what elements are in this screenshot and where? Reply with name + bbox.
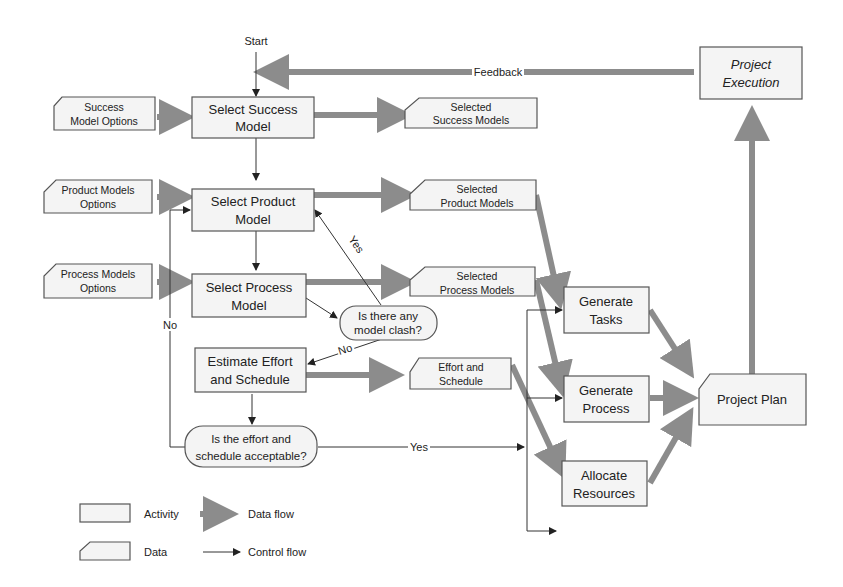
- label-no-accept: No: [163, 319, 177, 331]
- start-label: Start: [244, 35, 267, 47]
- activity-label: Model: [235, 212, 271, 227]
- activity-label: Select Success: [209, 102, 298, 117]
- cf-clash-yes: [315, 210, 381, 305]
- data-label: Product Models: [441, 197, 514, 209]
- activity-label: Generate: [579, 294, 633, 309]
- data-selected-success: Selected Success Models: [405, 98, 537, 128]
- data-label: Selected: [451, 101, 492, 113]
- activity-label: Allocate: [581, 468, 627, 483]
- label-yes-accept: Yes: [410, 441, 428, 453]
- activity-label: Process: [583, 401, 630, 416]
- activity-estimate: Estimate Effort and Schedule: [195, 348, 306, 392]
- data-process-options: Process Models Options: [44, 264, 152, 298]
- activity-label: Project: [731, 57, 773, 72]
- process-diagram: Start Feedback Yes No Yes No Select Succ…: [0, 0, 843, 587]
- data-project-plan: Project Plan: [699, 374, 806, 425]
- decision-label: schedule acceptable?: [195, 450, 306, 462]
- data-label: Options: [80, 282, 116, 294]
- df-process-to-genprocess: [536, 280, 560, 383]
- legend-activity-swatch: [80, 504, 130, 522]
- decision-model-clash: Is there any model clash?: [340, 306, 437, 340]
- df-allocate-to-plan: [650, 420, 686, 483]
- activity-label: Model: [235, 119, 271, 134]
- activity-select-process: Select Process Model: [192, 274, 306, 317]
- legend: Activity Data flow Data Control flow: [80, 504, 306, 560]
- legend-data-flow-label: Data flow: [248, 508, 294, 520]
- df-effort-to-allocate: [512, 365, 559, 466]
- activity-label: and Schedule: [210, 372, 290, 387]
- data-label: Success: [84, 101, 124, 113]
- activity-label: Select Product: [211, 194, 296, 209]
- data-label: Process Models: [61, 268, 136, 280]
- activity-select-success: Select Success Model: [192, 97, 314, 138]
- activity-label: Model: [231, 298, 267, 313]
- df-tasks-to-plan: [650, 310, 686, 366]
- activity-label: Generate: [579, 383, 633, 398]
- activity-generate-tasks: Generate Tasks: [564, 287, 649, 333]
- cf-process-to-clash: [306, 298, 337, 318]
- data-label: Effort and: [438, 361, 483, 373]
- data-label: Process Models: [440, 284, 515, 296]
- data-label: Schedule: [439, 375, 483, 387]
- activity-project-execution: Project Execution: [700, 47, 802, 99]
- feedback-label: Feedback: [474, 66, 523, 78]
- activity-label: Estimate Effort: [207, 354, 292, 369]
- activity-generate-process: Generate Process: [564, 376, 649, 422]
- data-effort-schedule: Effort and Schedule: [410, 358, 511, 389]
- data-selected-process: Selected Process Models: [410, 267, 535, 296]
- data-selected-product: Selected Product Models: [410, 180, 536, 210]
- decision-label: Is the effort and: [211, 433, 291, 445]
- decision-label: model clash?: [354, 324, 422, 336]
- legend-activity-label: Activity: [144, 508, 179, 520]
- data-label: Project Plan: [717, 392, 787, 407]
- data-label: Success Models: [433, 114, 509, 126]
- decision-label: Is there any: [358, 310, 418, 322]
- legend-data-swatch: [80, 542, 130, 560]
- activity-select-product: Select Product Model: [192, 189, 314, 231]
- activity-label: Select Process: [206, 280, 293, 295]
- data-label: Options: [80, 198, 116, 210]
- activity-label: Resources: [573, 486, 636, 501]
- data-product-options: Product Models Options: [44, 180, 152, 213]
- df-product-to-tasks: [536, 195, 558, 295]
- data-label: Selected: [457, 183, 498, 195]
- data-label: Product Models: [62, 184, 135, 196]
- legend-control-flow-label: Control flow: [248, 546, 306, 558]
- activity-label: Tasks: [589, 312, 623, 327]
- activity-allocate: Allocate Resources: [562, 461, 647, 506]
- legend-data-label: Data: [144, 546, 168, 558]
- data-label: Model Options: [70, 115, 138, 127]
- data-success-options: Success Model Options: [54, 97, 155, 130]
- activity-label: Execution: [722, 75, 779, 90]
- data-label: Selected: [457, 270, 498, 282]
- decision-acceptable: Is the effort and schedule acceptable?: [185, 426, 317, 467]
